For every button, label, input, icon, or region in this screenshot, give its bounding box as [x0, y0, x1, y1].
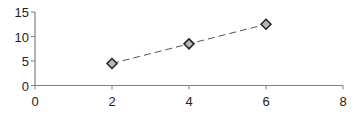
x-tick-label: 0: [31, 94, 38, 109]
y-ticks: 051015: [15, 5, 35, 94]
y-tick-label: 10: [15, 30, 29, 45]
y-tick-label: 0: [22, 79, 29, 94]
y-tick-label: 5: [22, 54, 29, 69]
x-tick-label: 8: [339, 94, 346, 109]
x-ticks: 02468: [31, 86, 346, 109]
x-tick-label: 4: [185, 94, 192, 109]
series-group: [107, 19, 271, 68]
line-chart: 051015 02468: [0, 0, 361, 117]
y-tick-label: 15: [15, 5, 29, 20]
data-point-marker: [184, 39, 194, 49]
data-point-marker: [107, 58, 117, 68]
data-point-marker: [261, 19, 271, 29]
x-tick-label: 2: [108, 94, 115, 109]
x-tick-label: 6: [262, 94, 269, 109]
